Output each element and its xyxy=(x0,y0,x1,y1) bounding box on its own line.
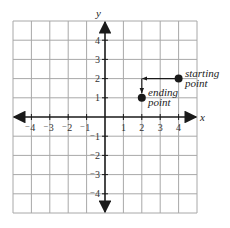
y-tick-label: 2 xyxy=(95,73,100,84)
y-tick-label: 1 xyxy=(95,92,100,103)
y-tick-label: 4 xyxy=(95,35,100,46)
starting-point-label: starting point xyxy=(184,67,220,89)
starting-point-marker xyxy=(175,75,183,83)
x-axis-label: x xyxy=(199,111,205,123)
x-tick-label: ⁻1 xyxy=(80,122,90,133)
y-tick-label: ⁻4 xyxy=(90,188,100,199)
x-tick-label: 3 xyxy=(158,122,163,133)
y-tick-label: ⁻3 xyxy=(90,169,100,180)
x-tick-labels: ⁻4 ⁻3 ⁻2 ⁻1 1 2 3 4 xyxy=(25,122,181,133)
ending-point-label: ending point xyxy=(147,86,178,108)
x-tick-label: ⁻2 xyxy=(62,122,72,133)
x-tick-label: 4 xyxy=(176,122,181,133)
x-tick-label: ⁻3 xyxy=(43,122,53,133)
coordinate-plane: ⁻4 ⁻3 ⁻2 ⁻1 1 2 3 4 4 3 2 1 ⁻1 ⁻2 ⁻3 ⁻4 … xyxy=(0,0,230,228)
x-tick-label: ⁻4 xyxy=(25,122,35,133)
ending-point-marker xyxy=(138,94,146,102)
svg-text:point: point xyxy=(184,77,209,89)
y-tick-label: ⁻2 xyxy=(90,150,100,161)
svg-text:point: point xyxy=(147,96,172,108)
y-axis-label: y xyxy=(95,7,101,19)
y-tick-label: ⁻1 xyxy=(90,131,100,142)
x-tick-label: 1 xyxy=(121,122,126,133)
y-tick-label: 3 xyxy=(95,54,100,65)
x-tick-label: 2 xyxy=(139,122,144,133)
